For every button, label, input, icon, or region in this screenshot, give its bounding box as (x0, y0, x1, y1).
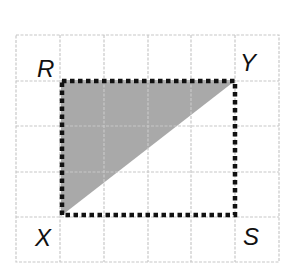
vertex-label-y: Y (240, 49, 258, 76)
vertex-label-r: R (37, 55, 54, 82)
diagram-canvas: R Y X S (0, 0, 285, 269)
vertex-label-s: S (243, 223, 259, 250)
vertex-label-x: X (34, 224, 52, 251)
grid-diagram: R Y X S (0, 0, 285, 269)
